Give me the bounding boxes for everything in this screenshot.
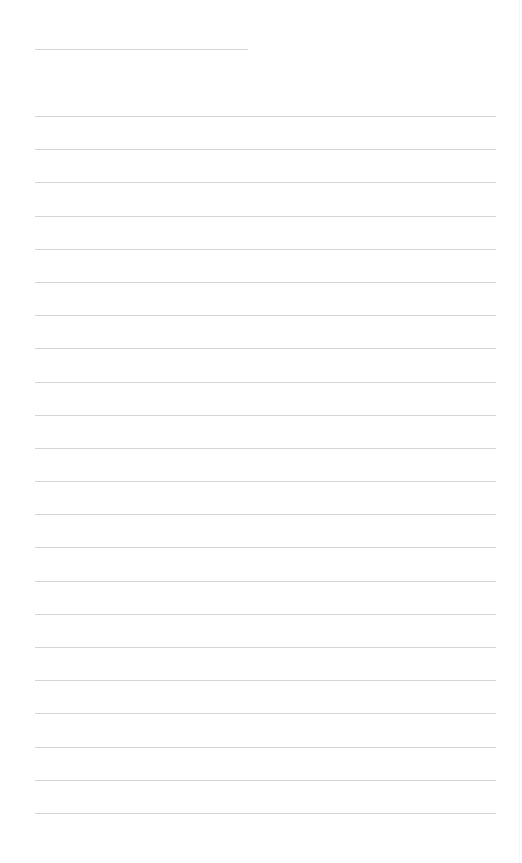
ruled-line [35,382,496,383]
ruled-line [35,116,496,117]
ruled-line [35,415,496,416]
ruled-line [35,315,496,316]
page-edge [519,0,520,863]
ruled-line [35,282,496,283]
ruled-line [35,647,496,648]
ruled-line [35,747,496,748]
ruled-lines [35,116,496,846]
ruled-line [35,713,496,714]
ruled-line [35,813,496,814]
ruled-line [35,481,496,482]
ruled-line [35,680,496,681]
ruled-line [35,249,496,250]
ruled-line [35,614,496,615]
ruled-line [35,581,496,582]
ruled-line [35,780,496,781]
ruled-line [35,348,496,349]
ruled-line [35,182,496,183]
ruled-line [35,448,496,449]
title-line [35,49,248,50]
ruled-line [35,216,496,217]
ruled-line [35,149,496,150]
ruled-line [35,514,496,515]
ruled-line [35,547,496,548]
